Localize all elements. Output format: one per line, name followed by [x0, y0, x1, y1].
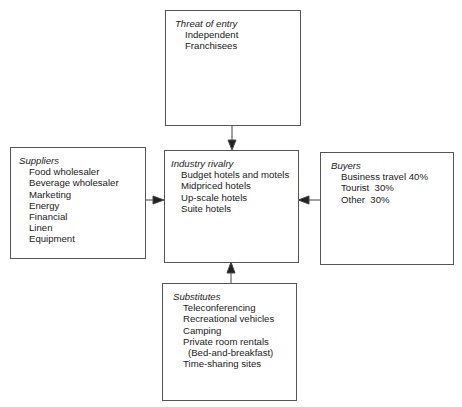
threat-of-entry-box: Threat of entry Independent Franchisees: [165, 10, 301, 126]
arrowhead-left-icon: [298, 196, 309, 204]
threat-of-entry-list: Independent Franchisees: [175, 29, 300, 51]
list-item: Beverage wholesaler: [29, 177, 145, 188]
list-item: Private room rentals: [183, 336, 296, 347]
threat-of-entry-title: Threat of entry: [175, 18, 300, 29]
list-item: Business travel 40%: [341, 171, 453, 182]
suppliers-title: Suppliers: [19, 155, 145, 166]
list-item: Equipment: [29, 233, 145, 244]
list-item: Teleconferencing: [183, 302, 296, 313]
substitutes-box: Substitutes Teleconferencing Recreationa…: [162, 283, 297, 401]
arrowhead-up-icon: [227, 262, 235, 273]
arrowhead-right-icon: [153, 196, 164, 204]
industry-rivalry-list: Budget hotels and motels Midpriced hotel…: [171, 169, 298, 214]
buyers-list: Business travel 40% Tourist 30% Other 30…: [331, 171, 453, 205]
list-item: Camping: [183, 325, 296, 336]
buyers-title: Buyers: [331, 160, 453, 171]
arrowhead-down-icon: [228, 140, 236, 150]
substitutes-title: Substitutes: [173, 291, 296, 302]
list-item: Up-scale hotels: [181, 192, 298, 203]
list-item: Franchisees: [185, 40, 300, 51]
list-item: Linen: [29, 222, 145, 233]
substitutes-list: Teleconferencing Recreational vehicles C…: [173, 302, 296, 369]
list-item: Recreational vehicles: [183, 313, 296, 324]
list-item: Budget hotels and motels: [181, 169, 298, 180]
list-item: Marketing: [29, 189, 145, 200]
list-item: Tourist 30%: [341, 182, 453, 193]
list-item: Other 30%: [341, 194, 453, 205]
list-item: Food wholesaler: [29, 166, 145, 177]
list-item: Independent: [185, 29, 300, 40]
suppliers-box: Suppliers Food wholesaler Beverage whole…: [10, 147, 146, 259]
list-item: (Bed-and-breakfast): [183, 347, 296, 358]
buyers-box: Buyers Business travel 40% Tourist 30% O…: [320, 152, 454, 265]
list-item: Financial: [29, 211, 145, 222]
list-item: Midpriced hotels: [181, 180, 298, 191]
industry-rivalry-title: Industry rivalry: [171, 158, 298, 169]
list-item: Suite hotels: [181, 203, 298, 214]
list-item: Energy: [29, 200, 145, 211]
industry-rivalry-box: Industry rivalry Budget hotels and motel…: [164, 150, 299, 263]
suppliers-list: Food wholesaler Beverage wholesaler Mark…: [19, 166, 145, 244]
list-item: Time-sharing sites: [183, 358, 296, 369]
